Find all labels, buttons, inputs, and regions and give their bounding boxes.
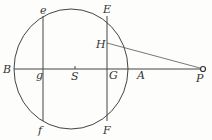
label-S: S bbox=[71, 70, 79, 83]
label-H: H bbox=[95, 38, 106, 51]
diagram-canvas: e E H B g S G A P f F bbox=[0, 0, 212, 140]
label-B: B bbox=[2, 63, 11, 76]
line-HP bbox=[107, 43, 200, 68]
point-P-marker bbox=[201, 67, 206, 72]
label-P: P bbox=[195, 72, 204, 85]
label-e: e bbox=[40, 4, 47, 17]
label-f: f bbox=[37, 124, 44, 137]
geometry-diagram: e E H B g S G A P f F bbox=[0, 0, 212, 140]
label-E: E bbox=[102, 3, 111, 16]
label-G: G bbox=[109, 69, 118, 82]
label-A: A bbox=[136, 69, 145, 82]
label-F: F bbox=[102, 124, 111, 137]
label-g: g bbox=[36, 69, 43, 82]
